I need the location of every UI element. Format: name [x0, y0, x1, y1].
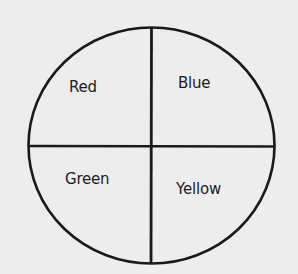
quadrant-circle: [0, 0, 298, 274]
quadrant-label-green: Green: [65, 172, 109, 187]
horizontal-divider: [28, 146, 275, 147]
quadrant-diagram: Red Blue Green Yellow: [0, 0, 298, 274]
quadrant-label-red: Red: [69, 80, 97, 95]
quadrant-label-yellow: Yellow: [176, 182, 221, 197]
quadrant-label-blue: Blue: [178, 76, 210, 91]
